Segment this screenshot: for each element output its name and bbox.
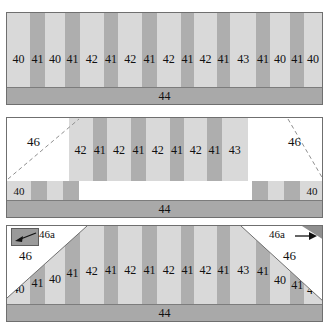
removed-region-label-left: 46 [27, 134, 40, 150]
layer-block: 41 [131, 118, 146, 181]
layer-label: 42 [200, 264, 212, 276]
layer-block: 41 [93, 118, 108, 181]
removed-region-label-right: 46 [288, 134, 301, 150]
layer-block: 43 [222, 118, 248, 181]
stub-block [47, 181, 63, 201]
layer-label: 40 [274, 53, 286, 65]
stub-block [31, 181, 47, 201]
layer-block: 42 [184, 118, 207, 181]
layer-label: 41 [218, 264, 230, 276]
stub-block: 40 [300, 181, 323, 201]
layer-block: 42 [69, 118, 93, 181]
layer-label: 42 [200, 53, 212, 65]
layer-label: 43 [237, 53, 249, 65]
layer-label: 40 [13, 53, 25, 65]
layer-label: 40 [13, 283, 25, 295]
layer-block: 42 [80, 226, 104, 305]
layer-label: 41 [257, 53, 269, 65]
removed-region-label-right: 46 [283, 248, 296, 264]
layer-label: 41 [105, 264, 117, 276]
panel-top: 40 41 40 41 42 41 42 41 42 41 42 41 [6, 12, 323, 105]
layer-label: 42 [113, 144, 125, 156]
layer-block: 42 [157, 226, 181, 305]
layer-block: 41 [181, 226, 195, 305]
layer-block: 41 [207, 118, 222, 181]
layer-block: 41 [217, 226, 231, 305]
taper-label-left: 46a [39, 228, 55, 240]
layer-label: 41 [144, 264, 156, 276]
layer-label: 42 [86, 53, 98, 65]
substrate-label: 44 [159, 202, 171, 217]
layer-label: 40 [307, 53, 319, 65]
layer-label: 41 [31, 277, 43, 289]
stub-block [252, 181, 268, 201]
substrate-bar: 44 [7, 304, 322, 321]
right-stub-row: 40 [288, 181, 323, 201]
substrate-label: 44 [159, 306, 171, 321]
stub-label: 40 [14, 185, 25, 197]
layer-label: 41 [291, 279, 303, 291]
layer-label: 41 [94, 144, 106, 156]
panel-bottom-stage: 40 41 40 41 42 41 42 41 42 41 42 41 [7, 226, 322, 321]
patent-figure: 40 41 40 41 42 41 42 41 42 41 42 41 [0, 0, 329, 327]
panel-top-stage: 40 41 40 41 42 41 42 41 42 41 42 41 [7, 13, 322, 104]
removed-region-label-left: 46 [19, 248, 32, 264]
layer-label: 41 [209, 144, 221, 156]
layer-label: 41 [182, 53, 194, 65]
layer-label: 42 [124, 264, 136, 276]
layer-label: 41 [218, 53, 230, 65]
layer-label: 41 [132, 144, 144, 156]
stub-block [284, 181, 300, 201]
layer-block: 41 [142, 226, 157, 305]
layer-label: 43 [237, 264, 249, 276]
layer-label: 40 [49, 273, 61, 285]
layer-label: 41 [66, 267, 78, 279]
layer-label: 41 [144, 53, 156, 65]
substrate-bar: 44 [7, 87, 322, 104]
layer-label: 41 [105, 53, 117, 65]
layer-label: 41 [171, 144, 183, 156]
layer-label: 40 [49, 53, 61, 65]
layer-label: 42 [152, 144, 164, 156]
layer-label: 41 [182, 264, 194, 276]
taper-detail-box-left [11, 228, 39, 246]
stub-block: 40 [7, 181, 31, 201]
layer-block: 41 [104, 226, 119, 305]
substrate-label: 44 [159, 89, 171, 104]
layer-label: 41 [31, 53, 43, 65]
taper-label-right: 46a [269, 228, 285, 240]
panel-bottom: 40 41 40 41 42 41 42 41 42 41 42 41 [6, 225, 323, 322]
layer-label: 41 [66, 53, 78, 65]
left-stub-row: 40 [7, 181, 79, 201]
layer-label: 42 [75, 144, 87, 156]
substrate-bar: 44 [7, 200, 322, 217]
stub-block [268, 181, 284, 201]
panel-middle-stage: 42 41 42 41 42 41 42 41 43 40 [7, 118, 322, 217]
layer-block: 41 [65, 226, 80, 305]
layer-label: 41 [257, 265, 269, 277]
layer-block: 42 [146, 118, 170, 181]
layer-label: 42 [163, 264, 175, 276]
figure-caption-partial [60, 0, 260, 6]
layer-block: 41 [290, 226, 304, 305]
layer-label: 42 [163, 53, 175, 65]
layer-label: 43 [229, 144, 241, 156]
layer-label: 42 [190, 144, 202, 156]
layer-label: 40 [307, 284, 319, 296]
layer-label: 41 [291, 53, 303, 65]
panel-middle: 42 41 42 41 42 41 42 41 43 40 [6, 117, 323, 218]
stub-label: 40 [307, 185, 318, 197]
layer-block: 42 [194, 226, 216, 305]
layer-block: 41 [170, 118, 185, 181]
layer-block: 42 [118, 226, 142, 305]
layer-block: 40 [304, 226, 322, 305]
layer-label: 42 [86, 265, 98, 277]
layer-block: 41 [256, 226, 270, 305]
layer-label: 40 [274, 274, 286, 286]
layer-block: 43 [230, 226, 256, 305]
layer-block: 42 [107, 118, 131, 181]
stub-block [63, 181, 79, 201]
layer-label: 42 [124, 53, 136, 65]
